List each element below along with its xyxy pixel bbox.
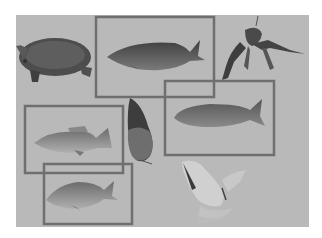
scene: Grayscale composite of aquatic animals o…: [0, 0, 322, 238]
